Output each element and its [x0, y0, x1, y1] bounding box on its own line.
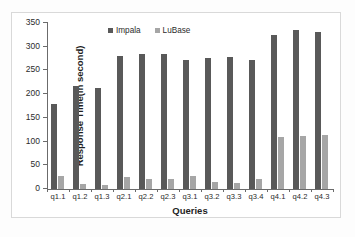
bar-impala-q3.4[interactable]: [249, 60, 255, 189]
bar-lubase-q1.1[interactable]: [58, 176, 64, 189]
x-tick-mark: [91, 189, 92, 192]
y-tick-label: 350: [26, 17, 40, 28]
x-axis-tick-labels: q1.1q1.2q1.3q2.1q2.2q2.3q3.1q3.2q3.3q3.4…: [47, 192, 333, 201]
x-tick-label-q3.1: q3.1: [179, 192, 201, 201]
x-tick-mark: [333, 189, 334, 192]
bar-impala-q1.2[interactable]: [73, 86, 79, 189]
x-tick-mark: [311, 189, 312, 192]
chart-legend: ImpalaLuBase: [108, 26, 190, 35]
x-tick-mark: [135, 189, 136, 192]
bar-group: [288, 23, 310, 189]
x-tick-mark: [267, 189, 268, 192]
x-axis-line: [47, 189, 333, 190]
bar-group: [179, 23, 201, 189]
x-tick-label-q2.2: q2.2: [135, 192, 157, 201]
bar-lubase-q4.2[interactable]: [300, 136, 306, 189]
bar-lubase-q3.4[interactable]: [256, 179, 262, 189]
x-tick-label-q4.2: q4.2: [289, 192, 311, 201]
bar-impala-q4.2[interactable]: [293, 30, 299, 189]
bar-group: [157, 23, 179, 189]
legend-label: Impala: [116, 26, 141, 35]
x-tick-label-q1.3: q1.3: [91, 192, 113, 201]
bar-impala-q4.3[interactable]: [315, 32, 321, 189]
bar-group: [200, 23, 222, 189]
bar-lubase-q4.3[interactable]: [322, 135, 328, 189]
x-tick-label-q3.3: q3.3: [223, 192, 245, 201]
x-tick-label-q2.1: q2.1: [113, 192, 135, 201]
bar-lubase-q3.1[interactable]: [190, 176, 196, 189]
bar-impala-q1.1[interactable]: [51, 104, 57, 189]
bar-impala-q2.1[interactable]: [117, 56, 123, 189]
legend-item-lubase[interactable]: LuBase: [155, 26, 191, 35]
bar-group: [244, 23, 266, 189]
x-tick-label-q1.2: q1.2: [69, 192, 91, 201]
plot-area: 050100150200250300350 Response Time(in s…: [47, 23, 332, 189]
x-tick-mark: [201, 189, 202, 192]
bar-impala-q3.2[interactable]: [205, 58, 211, 189]
x-tick-label-q4.3: q4.3: [311, 192, 333, 201]
bar-group: [135, 23, 157, 189]
bar-lubase-q2.2[interactable]: [146, 179, 152, 189]
x-tick-label-q4.1: q4.1: [267, 192, 289, 201]
legend-swatch-icon: [155, 28, 160, 33]
y-tick-label: 0: [35, 183, 40, 194]
bar-group: [69, 23, 91, 189]
x-tick-label-q3.2: q3.2: [201, 192, 223, 201]
x-tick-mark: [47, 189, 48, 192]
x-tick-mark: [289, 189, 290, 192]
x-tick-mark: [113, 189, 114, 192]
legend-item-impala[interactable]: Impala: [108, 26, 141, 35]
y-tick-label: 300: [26, 41, 40, 52]
x-tick-label-q2.3: q2.3: [157, 192, 179, 201]
x-tick-label-q1.1: q1.1: [47, 192, 69, 201]
x-tick-mark: [179, 189, 180, 192]
x-axis-title: Queries: [47, 205, 333, 216]
y-tick-label: 250: [26, 64, 40, 75]
bar-group: [47, 23, 69, 189]
bar-lubase-q1.2[interactable]: [80, 184, 86, 189]
bar-group: [113, 23, 135, 189]
legend-swatch-icon: [108, 28, 113, 33]
bar-impala-q3.1[interactable]: [183, 60, 189, 189]
bar-lubase-q3.2[interactable]: [212, 182, 218, 189]
bar-group: [91, 23, 113, 189]
x-tick-mark: [245, 189, 246, 192]
bar-group: [310, 23, 332, 189]
bar-impala-q2.2[interactable]: [139, 54, 145, 189]
x-tick-mark: [157, 189, 158, 192]
y-tick-label: 200: [26, 88, 40, 99]
bar-lubase-q2.3[interactable]: [168, 179, 174, 189]
bar-impala-q4.1[interactable]: [271, 35, 277, 189]
bar-group: [222, 23, 244, 189]
x-tick-mark: [223, 189, 224, 192]
bar-series-container: [47, 23, 332, 189]
y-tick-label: 50: [31, 159, 40, 170]
x-tick-label-q3.4: q3.4: [245, 192, 267, 201]
bar-lubase-q2.1[interactable]: [124, 177, 130, 189]
bar-group: [266, 23, 288, 189]
bar-impala-q3.3[interactable]: [227, 57, 233, 189]
chart-figure: 050100150200250300350 Response Time(in s…: [0, 0, 355, 237]
y-tick-label: 100: [26, 136, 40, 147]
bar-impala-q1.3[interactable]: [95, 88, 101, 189]
bar-lubase-q4.1[interactable]: [278, 137, 284, 189]
bar-impala-q2.3[interactable]: [161, 54, 167, 189]
bar-lubase-q3.3[interactable]: [234, 183, 240, 189]
x-tick-mark: [69, 189, 70, 192]
bar-lubase-q1.3[interactable]: [102, 185, 108, 189]
y-tick-label: 150: [26, 112, 40, 123]
legend-label: LuBase: [163, 26, 191, 35]
